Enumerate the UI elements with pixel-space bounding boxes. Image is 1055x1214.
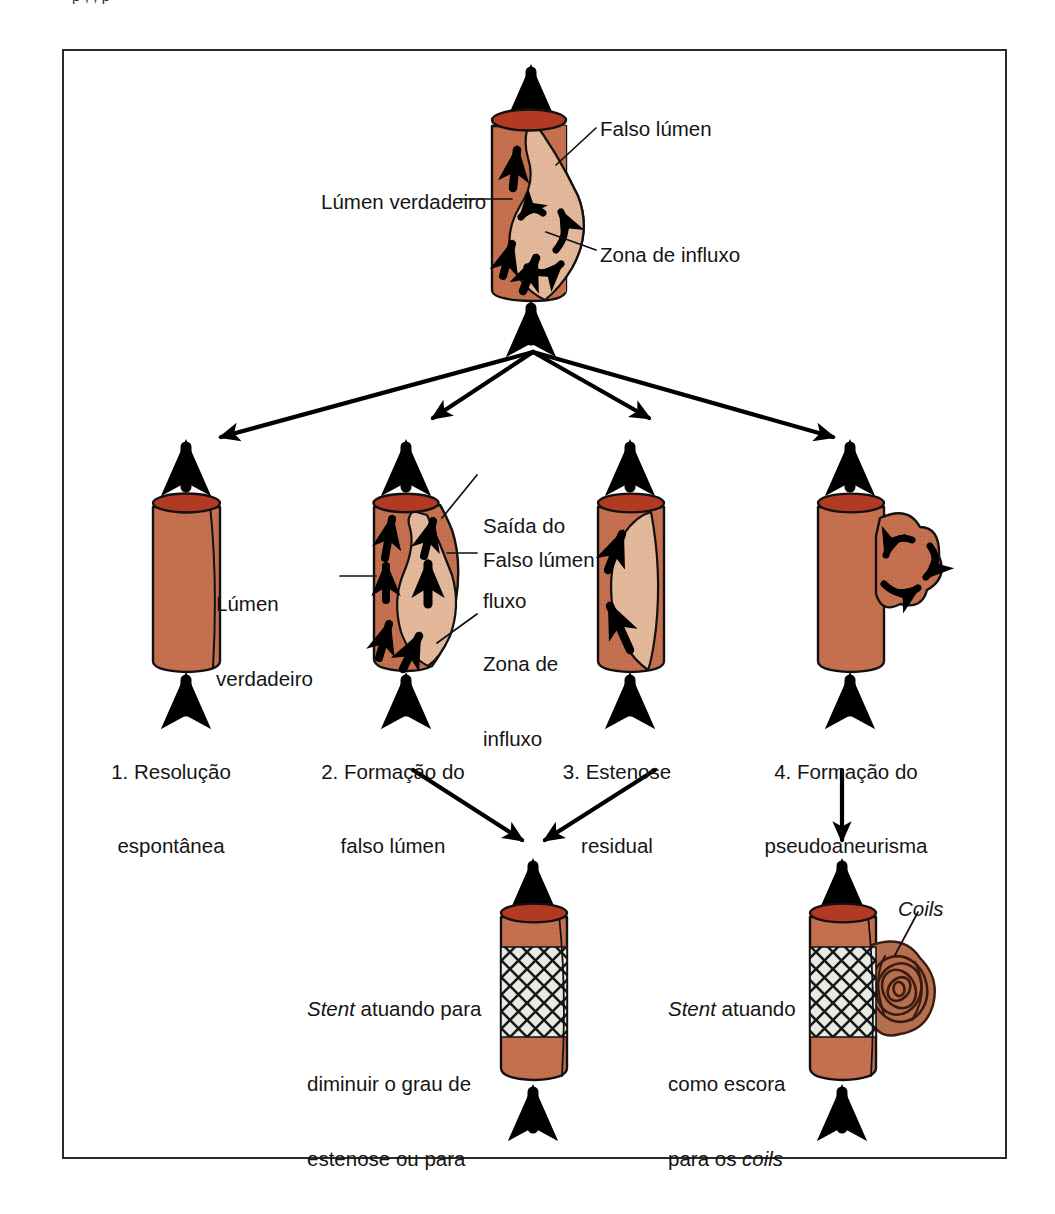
caption-stent-coils-line3: para os coils bbox=[668, 1146, 796, 1171]
label-saida-do-fluxo-line1: Saída do bbox=[483, 513, 565, 538]
label-zona-de-influxo-top: Zona de influxo bbox=[600, 243, 740, 267]
caption-stent-coils: Stent atuando como escora para os coils bbox=[668, 946, 796, 1214]
caption-stent-estenose-line2: diminuir o grau de bbox=[307, 1071, 484, 1096]
coils-word-italic: coils bbox=[742, 1147, 783, 1170]
caption-outcome-3: 3. Estenose residual bbox=[522, 711, 712, 908]
diagram-page: p , , p bbox=[0, 0, 1055, 1214]
caption-outcome-3-line2: residual bbox=[522, 834, 712, 859]
caption-stent-coils-line3-pre: para os bbox=[668, 1147, 742, 1170]
label-falso-lumen-row2: Falso lúmen bbox=[483, 548, 595, 572]
caption-stent-coils-line1-rest: atuando bbox=[716, 997, 796, 1020]
caption-stent-estenose-line1-rest: atuando para bbox=[355, 997, 482, 1020]
caption-outcome-1-line1: 1. Resolução bbox=[71, 760, 271, 785]
caption-outcome-2-line2: falso lúmen bbox=[283, 834, 503, 859]
caption-stent-coils-line2: como escora bbox=[668, 1071, 796, 1096]
label-zona-de-influxo-line1: Zona de bbox=[483, 651, 558, 676]
caption-outcome-3-line1: 3. Estenose bbox=[522, 760, 712, 785]
clipped-top-caption: p , , p bbox=[0, 0, 1055, 7]
caption-stent-estenose: Stent atuando para diminuir o grau de es… bbox=[307, 946, 484, 1214]
caption-outcome-2: 2. Formação do falso lúmen bbox=[283, 711, 503, 908]
caption-outcome-2-line1: 2. Formação do bbox=[283, 760, 503, 785]
label-lumen-verdadeiro-line2: verdadeiro bbox=[216, 666, 313, 691]
caption-stent-estenose-line1: Stent atuando para bbox=[307, 996, 484, 1021]
caption-outcome-4-line1: 4. Formação do bbox=[721, 760, 971, 785]
caption-outcome-4-line2: pseudoaneurisma bbox=[721, 834, 971, 859]
label-coils: Coils bbox=[898, 897, 944, 921]
label-lumen-verdadeiro-line1: Lúmen bbox=[216, 591, 313, 616]
stent-word-italic-2: Stent bbox=[668, 997, 716, 1020]
caption-outcome-4: 4. Formação do pseudoaneurisma bbox=[721, 711, 971, 908]
caption-stent-estenose-line3: estenose ou para bbox=[307, 1146, 484, 1171]
stent-word-italic: Stent bbox=[307, 997, 355, 1020]
label-falso-lumen-top: Falso lúmen bbox=[600, 117, 712, 141]
caption-stent-coils-line1: Stent atuando bbox=[668, 996, 796, 1021]
clipped-top-caption-text: p , , p bbox=[0, 0, 1055, 4]
caption-outcome-1-line2: espontânea bbox=[71, 834, 271, 859]
label-lumen-verdadeiro-top: Lúmen verdadeiro bbox=[321, 190, 486, 214]
caption-outcome-1: 1. Resolução espontânea bbox=[71, 711, 271, 908]
